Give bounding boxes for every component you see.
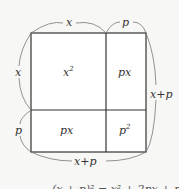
label-left-x: x — [15, 66, 22, 79]
cell-px-bottom: px — [60, 124, 74, 137]
cell-px-top: px — [118, 66, 132, 79]
square-diagram: x p x p x+p x+p x2 px px p2 (x + p)² = x… — [0, 0, 179, 189]
label-top-p: p — [122, 16, 129, 29]
label-left-p: p — [15, 124, 22, 137]
label-top-x: x — [66, 16, 73, 29]
formula: (x + p)² = x² + 2px + p² — [52, 183, 179, 189]
outer-square — [31, 33, 146, 152]
label-right-xp: x+p — [150, 88, 172, 101]
label-bottom-xp: x+p — [74, 155, 96, 168]
